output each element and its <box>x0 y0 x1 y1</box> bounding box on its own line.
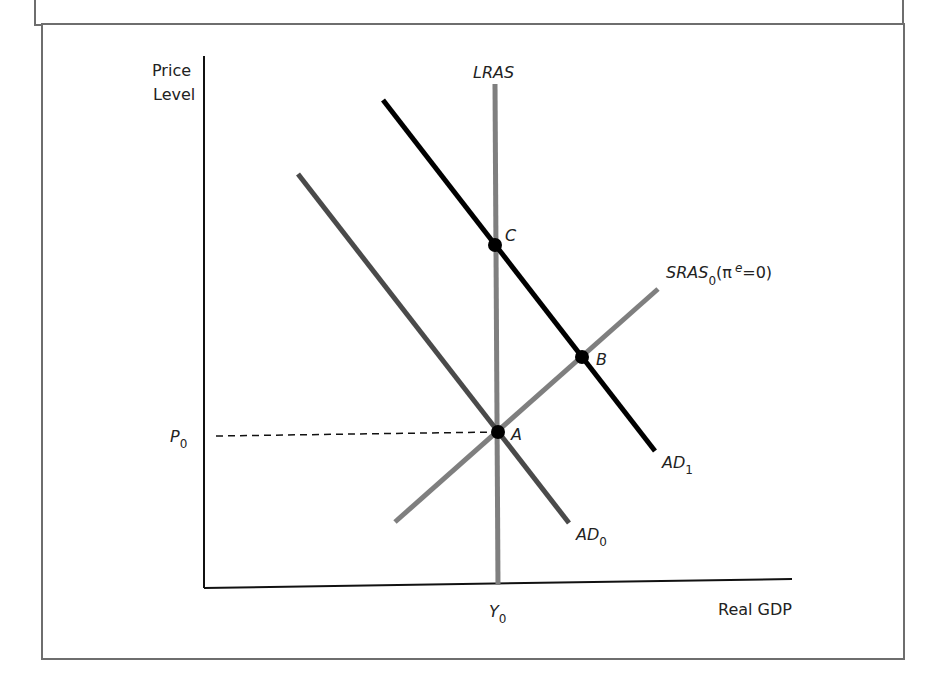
ad0-label-sub: 0 <box>599 535 607 549</box>
ad-as-diagram: Price Level Real GDP LRAS SRAS0(πe=0) AD… <box>0 0 936 696</box>
p0-label: P0 <box>170 427 187 451</box>
p0-label-sub: 0 <box>180 437 188 451</box>
x-axis-label: Real GDP <box>718 600 792 619</box>
point-a-label: A <box>510 425 522 444</box>
ad1-label-main: AD <box>661 453 685 472</box>
ad1-label-sub: 1 <box>685 463 693 477</box>
sras0-label: SRAS0(πe=0) <box>666 261 772 288</box>
sras0-label-paren: (π <box>716 263 732 282</box>
y0-label-sub: 0 <box>499 612 507 626</box>
lras-label: LRAS <box>473 63 514 82</box>
sras0-label-sup: e <box>735 261 742 275</box>
y-axis-label-line1: Price <box>152 61 191 80</box>
point-a-marker <box>491 425 505 439</box>
sras0-label-main: SRAS <box>666 263 708 282</box>
ad0-label-main: AD <box>575 525 599 544</box>
ad0-label: AD0 <box>575 525 607 549</box>
sras0-label-sub: 0 <box>708 274 716 288</box>
ad1-label: AD1 <box>661 453 693 477</box>
y0-label: Y0 <box>489 602 506 626</box>
point-c-label: C <box>505 226 517 245</box>
lras-curve <box>495 84 498 585</box>
ad1-curve <box>383 100 655 451</box>
p0-dashed-line <box>216 432 496 436</box>
point-b-marker <box>575 350 589 364</box>
point-c-marker <box>488 238 502 252</box>
point-b-label: B <box>596 350 607 369</box>
y-axis-label-line2: Level <box>153 85 195 104</box>
p0-label-main: P <box>170 427 180 446</box>
ad0-curve <box>298 174 569 523</box>
sras0-label-tail: =0) <box>742 263 772 282</box>
